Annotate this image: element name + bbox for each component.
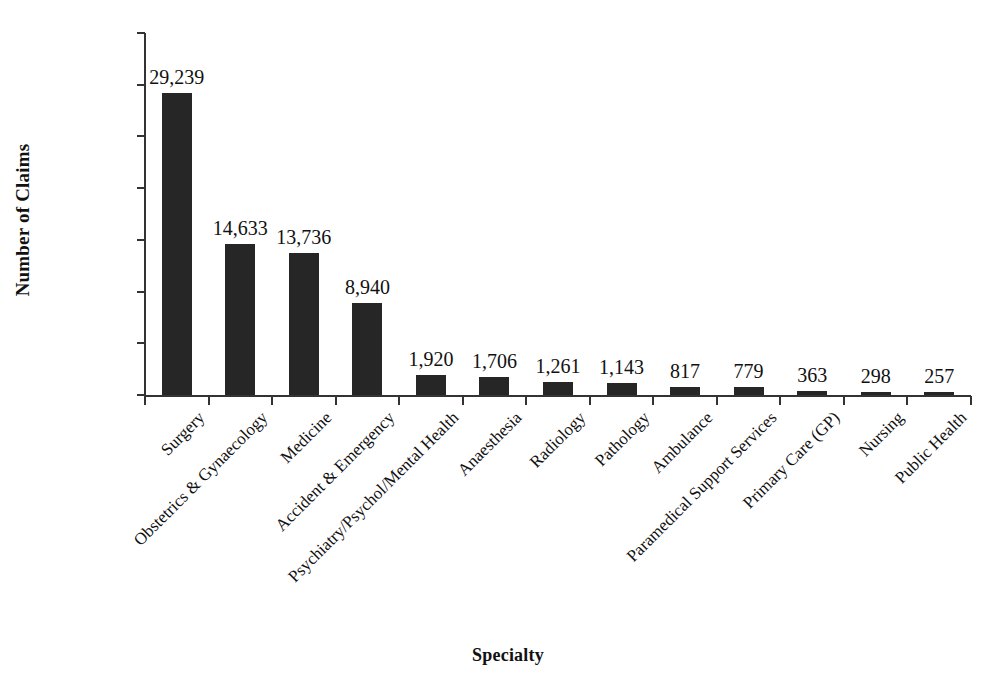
- x-axis-category-labels: SurgeryObstetrics & GynaecologyMedicineA…: [145, 406, 971, 666]
- y-axis-title-label: Number of Claims: [12, 144, 34, 297]
- x-axis-tick: [652, 396, 654, 405]
- x-axis-tick: [462, 396, 464, 405]
- x-axis-tick: [906, 396, 908, 405]
- bar: [162, 93, 192, 395]
- bar-value-label: 1,920: [408, 348, 453, 371]
- bar: [797, 391, 827, 395]
- y-axis-tick: [137, 239, 145, 241]
- x-axis-tick: [589, 396, 591, 405]
- x-axis-category-label: Medicine: [276, 408, 336, 468]
- bar-value-label: 1,261: [536, 355, 581, 378]
- bar: [416, 375, 446, 395]
- plot-area: 29,23914,63313,7368,9401,9201,7061,2611,…: [145, 33, 971, 395]
- bar: [289, 253, 319, 395]
- bar-value-label: 8,940: [345, 276, 390, 299]
- bar-value-label: 29,239: [149, 66, 204, 89]
- x-axis-tick: [144, 396, 146, 405]
- x-axis-tick: [779, 396, 781, 405]
- y-axis-tick: [137, 84, 145, 86]
- bar-value-label: 363: [797, 364, 827, 387]
- bar-value-label: 298: [861, 365, 891, 388]
- y-axis-tick: [137, 342, 145, 344]
- bar-value-label: 13,736: [276, 226, 331, 249]
- bar-value-label: 817: [670, 360, 700, 383]
- bar-value-label: 779: [734, 360, 764, 383]
- x-axis-tick: [716, 396, 718, 405]
- bar: [479, 377, 509, 395]
- x-axis-tick: [970, 396, 972, 405]
- y-axis-tick: [137, 187, 145, 189]
- bar-value-label: 14,633: [213, 217, 268, 240]
- bar-chart-figure: Number of Claims 05,00010,00015,00020,00…: [0, 0, 997, 696]
- x-axis-tick: [398, 396, 400, 405]
- bar-value-label: 257: [924, 365, 954, 388]
- bar: [225, 244, 255, 395]
- x-axis-category-label: Radiology: [526, 408, 590, 472]
- bar: [734, 387, 764, 395]
- x-axis-tick: [335, 396, 337, 405]
- x-axis-tick: [208, 396, 210, 405]
- x-axis-category-label: Anaesthesia: [454, 408, 526, 480]
- x-axis-tick: [843, 396, 845, 405]
- x-axis-line: [144, 395, 971, 397]
- x-axis-tick: [525, 396, 527, 405]
- x-axis-category-label: Nursing: [855, 408, 908, 461]
- bar-value-label: 1,143: [599, 356, 644, 379]
- bar: [543, 382, 573, 395]
- x-axis-category-label: Accident & Emergency: [272, 408, 399, 535]
- x-axis-title: Specialty: [388, 645, 628, 666]
- bar: [924, 392, 954, 395]
- x-axis-category-label: Surgery: [157, 408, 209, 460]
- bar: [352, 303, 382, 395]
- y-axis-tick: [137, 32, 145, 34]
- bar-value-label: 1,706: [472, 350, 517, 373]
- y-axis-title: Number of Claims: [6, 40, 40, 400]
- bar: [607, 383, 637, 395]
- x-axis-category-label: Pathology: [591, 408, 654, 471]
- x-axis-tick: [271, 396, 273, 405]
- y-axis-tick: [137, 135, 145, 137]
- bar: [861, 392, 891, 395]
- y-axis-tick: [137, 291, 145, 293]
- bar: [670, 387, 700, 395]
